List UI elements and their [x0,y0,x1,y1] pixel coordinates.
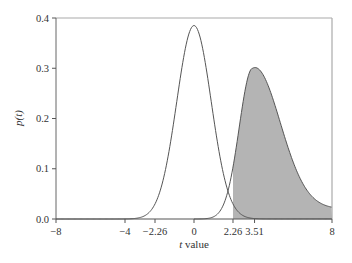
x-tick-label: −4 [119,226,131,237]
y-tick-label: 0.3 [36,63,49,74]
y-tick-label: 0.0 [36,214,49,225]
y-tick-label: 0.2 [36,113,49,124]
t-distribution-chart: −8−4−2.2602.263.518 0.00.10.20.30.4 t va… [0,0,352,263]
x-tick-label: −2.26 [143,226,167,237]
y-tick-label: 0.4 [36,13,50,24]
power-shaded-area [233,68,332,219]
y-axis-title: p(t) [12,110,25,127]
x-tick-label: 8 [329,226,334,237]
x-axis-title: t value [179,238,209,250]
x-tick-label: 3.51 [245,226,263,237]
y-tick-label: 0.1 [36,163,49,174]
shaded-power-region [233,68,332,219]
x-tick-label: −8 [50,226,61,237]
x-tick-label: 2.26 [224,226,242,237]
x-tick-label: 0 [191,226,196,237]
y-axis-ticks: 0.00.10.20.30.4 [36,13,56,225]
x-axis-ticks: −8−4−2.2602.263.518 [50,219,334,237]
